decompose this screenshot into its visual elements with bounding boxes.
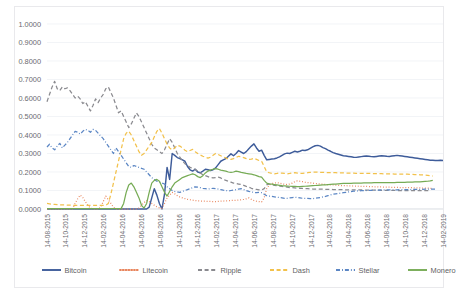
y-axis-tick-label: 0.6000 [18,94,41,103]
y-axis-tick-label: 0.8000 [18,57,41,66]
series-line-dash [47,129,433,206]
x-axis-tick-label: 14-02-2017 [213,214,220,248]
x-axis-tick-label: 14-10-2016 [176,214,183,248]
x-axis-tick-label: 14-02-2016 [100,214,107,248]
x-axis-tick-label: 14-10-2015 [62,214,69,248]
y-axis-tick-label: 0.2000 [18,168,41,177]
legend-label-stellar: Stellar [359,266,380,275]
legend-label-bitcoin: Bitcoin [65,266,87,275]
legend-item-bitcoin[interactable]: Bitcoin [42,266,87,275]
x-axis-tick-label: 14-02-2019 [440,214,447,248]
x-axis-tick-label: 14-04-2017 [232,214,239,248]
x-axis-tick-label: 14-08-2017 [270,214,277,248]
y-axis-tick-label: 1.0000 [18,20,41,29]
legend-item-monero[interactable]: Monero [408,266,456,275]
x-axis-tick-label: 14-08-2016 [157,214,164,248]
x-axis-tick-label: 14-08-2018 [383,214,390,248]
y-axis-tick-label: 0.1000 [18,186,41,195]
legend-label-monero: Monero [431,266,456,275]
x-axis-tick-label: 14-12-2018 [421,214,428,248]
y-axis-tick-label: 0.3000 [18,149,41,158]
y-axis-tick-label: 0.4000 [18,131,41,140]
legend-item-ripple[interactable]: Ripple [198,266,241,275]
x-axis-tick-label: 14-10-2017 [289,214,296,248]
y-axis-tick-label: 0.7000 [18,75,41,84]
x-axis-tick-label: 14-04-2016 [119,214,126,248]
line-chart: 0.00000.10000.20000.30000.40000.50000.60… [0,0,459,299]
y-axis-tick-label: 0.9000 [18,38,41,47]
legend-item-litecoin[interactable]: Litecoin [120,266,168,275]
x-axis-tick-label: 14-12-2017 [308,214,315,248]
series-line-litecoin [47,181,433,209]
legend-item-dash[interactable]: Dash [270,266,310,275]
y-axis-tick-label: 0.0000 [18,205,41,214]
x-axis-tick-label: 14-06-2018 [364,214,371,248]
x-axis-tick-label: 14-06-2016 [138,214,145,248]
legend-item-stellar[interactable]: Stellar [336,266,380,275]
series-line-stellar [47,129,435,198]
x-axis-tick-label: 14-12-2015 [81,214,88,248]
x-axis-tick-label: 14-08-2015 [44,214,51,248]
x-axis-tick-label: 14-02-2018 [326,214,333,248]
legend-label-dash: Dash [293,266,310,275]
x-axis-tick-label: 14-04-2018 [345,214,352,248]
x-axis-tick-label: 14-10-2018 [402,214,409,248]
chart-plot-wrapper: 0.00000.10000.20000.30000.40000.50000.60… [0,0,459,299]
x-axis-tick-label: 14-12-2016 [194,214,201,248]
x-axis-tick-label: 14-06-2017 [251,214,258,248]
legend-label-litecoin: Litecoin [143,266,168,275]
legend-label-ripple: Ripple [221,266,242,275]
y-axis-tick-label: 0.5000 [18,112,41,121]
